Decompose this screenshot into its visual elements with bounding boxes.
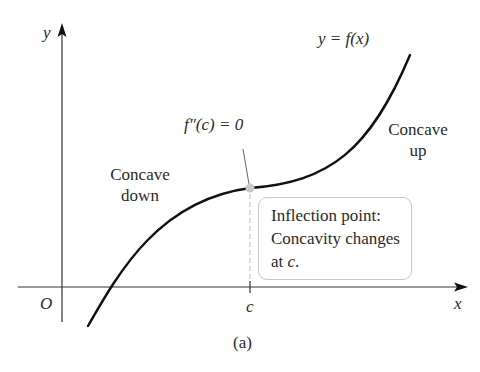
second-derivative-text: f″(c) = 0: [184, 115, 243, 134]
concave-down-line2: down: [100, 187, 180, 204]
callout-line3-var: c: [288, 252, 296, 271]
second-derivative-label: f″(c) = 0: [184, 116, 243, 133]
concave-down-label: Concave down: [100, 166, 180, 204]
callout-line3-suffix: .: [295, 252, 299, 271]
leader-line: [243, 149, 249, 184]
figure-caption: (a): [233, 334, 252, 351]
origin-label: O: [40, 295, 52, 312]
graph-canvas: [0, 0, 480, 372]
inflection-callout-box: Inflection point: Concavity changes at c…: [258, 197, 412, 280]
concave-up-line1: Concave: [378, 121, 458, 138]
x-axis-label: x: [454, 295, 462, 312]
callout-line1: Inflection point:: [271, 207, 381, 224]
concave-down-line1: Concave: [100, 166, 180, 183]
curve-label: y = f(x): [318, 30, 369, 47]
y-axis-label: y: [43, 24, 51, 41]
callout-line2: Concavity changes: [271, 230, 400, 247]
concave-up-line2: up: [378, 142, 458, 159]
callout-line3-prefix: at: [271, 252, 288, 271]
tick-label-c: c: [246, 298, 254, 315]
curve-label-text: y = f(x): [318, 29, 369, 48]
callout-line3: at c.: [271, 253, 299, 270]
concave-up-label: Concave up: [378, 121, 458, 159]
inflection-point-dot: [246, 184, 255, 193]
